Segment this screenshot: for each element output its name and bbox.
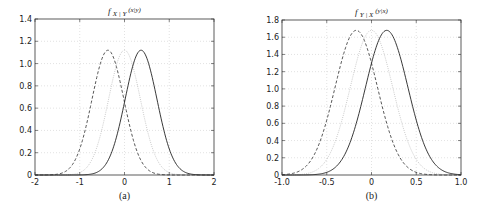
y-tick-label: 1.4	[19, 15, 32, 24]
x-tick-label: 0.5	[410, 178, 423, 187]
subfigure-caption: (a)	[119, 190, 130, 202]
y-tick-label: 1.0	[266, 85, 279, 94]
x-tick-label: 0	[369, 178, 374, 187]
x-tick-label: 1.0	[455, 178, 468, 187]
y-tick-label: 0.4	[266, 137, 279, 146]
y-tick-label: 0.2	[266, 154, 279, 163]
figure: -2-101200.20.40.60.81.01.21.4f X | Y (x|…	[0, 0, 482, 214]
y-tick-label: 1.0	[19, 60, 32, 69]
chart-title: f X | Y (x|y)	[108, 6, 142, 18]
plot-b: -1.0-0.500.51.000.20.40.60.81.01.21.41.6…	[266, 7, 467, 202]
y-tick-label: 0	[27, 171, 32, 180]
y-tick-label: 1.2	[19, 37, 32, 46]
y-tick-label: 0.6	[19, 104, 32, 113]
chart-title: f Y | X (y|x)	[355, 7, 389, 19]
x-tick-label: -2	[31, 178, 39, 187]
y-tick-label: 0.2	[19, 149, 32, 158]
x-tick-label: -1	[76, 178, 84, 187]
y-tick-label: 1.4	[266, 50, 279, 59]
axes-box	[282, 20, 461, 175]
y-tick-label: 1.6	[266, 33, 279, 42]
x-tick-label: 0	[122, 178, 127, 187]
x-tick-label: -0.5	[319, 178, 335, 187]
subfigure-caption: (b)	[366, 190, 378, 202]
y-tick-label: 0.4	[19, 126, 32, 135]
curve-dotted	[282, 30, 461, 175]
y-tick-label: 0.8	[19, 82, 32, 91]
y-tick-label: 1.2	[266, 68, 279, 77]
y-tick-label: 1.8	[266, 16, 279, 25]
x-tick-label: 1	[167, 178, 172, 187]
x-tick-label: 2	[211, 178, 216, 187]
y-tick-label: 0.6	[266, 119, 279, 128]
y-tick-label: 0.8	[266, 102, 279, 111]
curve-dashed	[282, 30, 461, 175]
curve-solid	[282, 30, 461, 175]
y-tick-label: 0	[274, 171, 279, 180]
plot-a: -2-101200.20.40.60.81.01.21.4f X | Y (x|…	[19, 6, 216, 202]
